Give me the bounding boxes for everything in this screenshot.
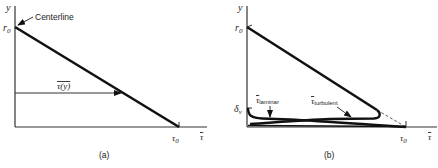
tau-turbulent-label: τturbulent [311, 96, 338, 106]
turbulent-arrow [337, 107, 351, 117]
r0-label-a: r0 [3, 22, 11, 35]
shear-stress-line-a [15, 27, 179, 127]
panel-b: y r0 δv τlaminar τturbulent τ0 τ (b) [234, 2, 437, 160]
laminar-curve [248, 108, 406, 127]
tau-laminar-label: τlaminar [256, 95, 279, 105]
caption-a: (a) [99, 150, 110, 160]
centerline-leader [18, 17, 33, 25]
delta-v-label: δv [234, 103, 242, 115]
y-axis-label-a: y [5, 2, 11, 13]
panel-a: y r0 Centerline τ(y) τ0 τ (a) [3, 2, 207, 160]
tau0-label-b: τ0 [400, 133, 407, 145]
centerline-label: Centerline [35, 12, 74, 22]
y-axis-label-b: y [237, 2, 243, 13]
caption-b: (b) [324, 150, 335, 160]
x-axis-label-b: τ [428, 132, 432, 142]
tau0-label-a: τ0 [172, 133, 179, 145]
shear-stress-diagram: y r0 Centerline τ(y) τ0 τ (a) [0, 0, 438, 168]
r0-label-b: r0 [235, 22, 243, 35]
x-axis-label-a: τ [200, 132, 204, 142]
near-wall-band [248, 126, 406, 127]
tau-y-label: τ(y) [57, 81, 70, 91]
